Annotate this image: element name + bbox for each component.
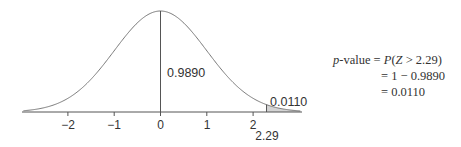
p-value-result: 0.0110: [391, 85, 425, 99]
equals-2: =: [381, 69, 388, 83]
formula-line-2: = 1 − 0.9890: [381, 68, 445, 84]
equals-3: =: [381, 85, 388, 99]
Z-italic: Z: [396, 53, 403, 67]
equals-1: =: [374, 53, 381, 67]
one-minus: 1 − 0.9890: [391, 69, 445, 83]
p-value-formula: p-value = P(Z > 2.29) = 1 − 0.9890 = 0.0…: [0, 0, 461, 147]
value-word: -value: [339, 53, 370, 67]
formula-line-1: p-value = P(Z > 2.29): [333, 52, 442, 68]
formula-line-3: = 0.0110: [381, 84, 425, 100]
gt-229: > 2.29): [403, 53, 442, 67]
